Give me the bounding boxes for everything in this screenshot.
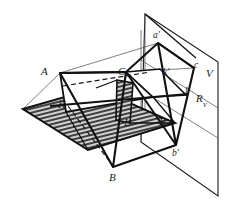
label-l-prime: l′ <box>185 87 190 97</box>
label-b-prime: b′ <box>172 149 179 159</box>
label-a-prime: a′ <box>153 31 160 41</box>
label-c-prime: c <box>194 61 198 71</box>
label-R: R <box>159 116 166 127</box>
label-k-prime: k′ <box>163 68 169 78</box>
triangle-abc-top-edge <box>60 72 126 73</box>
label-K: K <box>58 99 65 110</box>
label-R-v-subscript: V <box>203 101 207 108</box>
label-R-v: RV <box>196 93 207 107</box>
label-A: A <box>41 66 48 77</box>
label-L: L <box>124 117 130 128</box>
geometry-figure: A B C K L R V a′ b′ c k′ l′ RV <box>0 0 234 208</box>
label-V: V <box>206 68 213 79</box>
label-C: C <box>118 66 125 77</box>
label-B: B <box>109 172 116 183</box>
label-R-v-base: R <box>196 92 203 104</box>
